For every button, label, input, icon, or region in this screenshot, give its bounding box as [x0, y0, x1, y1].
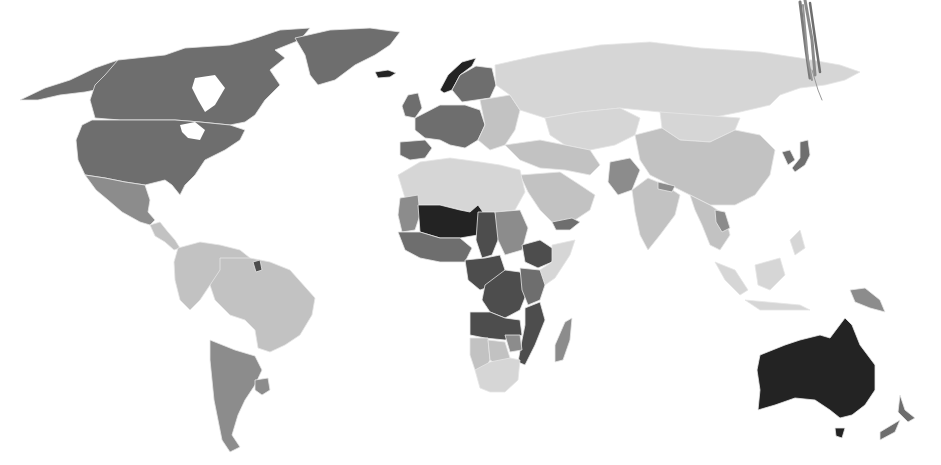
region-arabia[interactable]: Arabian Peninsula: [520, 172, 595, 225]
world-map: Alaska Canada United States Greenland Ic…: [0, 0, 941, 465]
region-mali-niger[interactable]: Mali / Niger: [418, 205, 485, 238]
region-iceland[interactable]: Iceland: [375, 70, 396, 78]
region-canada[interactable]: Canada: [90, 28, 310, 125]
region-uruguay[interactable]: Uruguay: [255, 378, 270, 395]
region-png[interactable]: Papua New Guinea: [850, 288, 885, 312]
region-australia[interactable]: Australia: [757, 318, 875, 418]
region-mauritania[interactable]: Mauritania: [398, 195, 420, 232]
region-new-zealand[interactable]: New Zealand: [880, 395, 915, 440]
choropleth-svg: Alaska Canada United States Greenland Ic…: [0, 0, 941, 465]
region-argentina-chile[interactable]: Argentina / Chile: [210, 340, 262, 452]
region-madagascar[interactable]: Madagascar: [555, 318, 572, 362]
region-eastern-europe[interactable]: Eastern Europe: [478, 95, 520, 150]
region-iberia[interactable]: Iberia: [400, 140, 432, 160]
region-uk-ireland[interactable]: UK / Ireland: [402, 93, 422, 118]
region-brazil[interactable]: Brazil: [210, 258, 315, 352]
region-central-america[interactable]: Central America: [150, 222, 180, 250]
region-indonesia[interactable]: Indonesia / Philippines: [715, 230, 810, 310]
region-tasmania[interactable]: Tasmania: [835, 428, 845, 438]
region-japan[interactable]: Japan: [792, 140, 810, 172]
region-korea[interactable]: South Korea: [782, 150, 795, 165]
